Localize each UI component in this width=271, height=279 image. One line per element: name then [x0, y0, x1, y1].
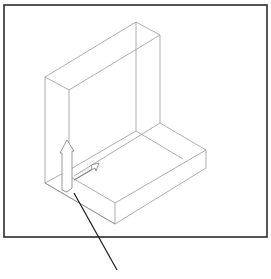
vertical-arrow-icon — [60, 140, 74, 192]
diagram-canvas — [0, 0, 271, 279]
block-edge — [69, 35, 160, 90]
block-edge — [160, 123, 206, 150]
block-edge — [69, 176, 115, 203]
block-edge — [69, 131, 136, 170]
leader-line — [74, 193, 117, 270]
block-edge — [45, 22, 136, 77]
block-edge — [45, 77, 69, 90]
block-edge — [136, 22, 160, 35]
horizontal-arrow-icon — [74, 163, 99, 180]
block-edge — [74, 123, 160, 176]
figure-frame — [4, 5, 267, 237]
block-wireframe-edges — [45, 22, 206, 224]
block-edge — [136, 131, 183, 159]
